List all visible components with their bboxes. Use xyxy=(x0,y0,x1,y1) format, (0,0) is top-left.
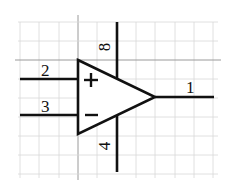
pin-3-label: 3 xyxy=(41,97,50,116)
pin-4-label: 4 xyxy=(95,141,114,150)
op-amp-diagram: 2 3 1 8 4 xyxy=(0,0,232,191)
pin-1-label: 1 xyxy=(186,78,195,97)
pin-8-label: 8 xyxy=(95,43,114,52)
pin-2-label: 2 xyxy=(41,61,50,80)
